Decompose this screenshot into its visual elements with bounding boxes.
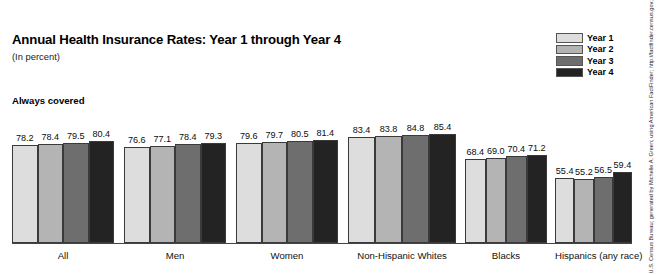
title-block: Annual Health Insurance Rates: Year 1 th… xyxy=(12,32,532,62)
category-label: Non-Hispanic Whites xyxy=(348,250,456,261)
bar-group: 79.679.780.581.4 xyxy=(236,113,338,243)
bar-value-label: 77.1 xyxy=(153,134,171,144)
bar-rect[interactable] xyxy=(527,155,548,243)
category-label: Hispanics (any race) xyxy=(555,250,632,261)
legend-item-label: Year 2 xyxy=(587,44,614,54)
bar-rect[interactable] xyxy=(236,143,262,243)
bar-group-bars: 79.679.780.581.4 xyxy=(236,113,338,243)
legend-swatch-icon xyxy=(556,56,583,66)
bar[interactable]: 79.5 xyxy=(63,113,89,243)
legend-swatch-icon xyxy=(556,68,583,78)
bar-rect[interactable] xyxy=(12,145,38,243)
bar[interactable]: 80.4 xyxy=(89,113,115,243)
bar[interactable]: 79.6 xyxy=(236,113,262,243)
bar-value-label: 80.4 xyxy=(92,129,110,139)
bar-rect[interactable] xyxy=(402,135,429,243)
bar-value-label: 79.7 xyxy=(265,130,283,140)
bar[interactable]: 55.2 xyxy=(574,113,593,243)
bar-rect[interactable] xyxy=(262,142,288,242)
legend-item-label: Year 3 xyxy=(587,56,614,66)
chart-figure: Annual Health Insurance Rates: Year 1 th… xyxy=(0,0,657,275)
bar-value-label: 68.4 xyxy=(466,147,484,157)
bar[interactable]: 78.2 xyxy=(12,113,38,243)
legend-item-2[interactable]: Year 2 xyxy=(556,44,614,56)
bar-rect[interactable] xyxy=(124,147,150,242)
bar-rect[interactable] xyxy=(175,144,201,242)
bar[interactable]: 76.6 xyxy=(124,113,150,243)
bar-rect[interactable] xyxy=(429,134,456,242)
bar-rect[interactable] xyxy=(613,172,632,242)
bar[interactable]: 55.4 xyxy=(555,113,574,243)
legend-swatch-icon xyxy=(556,45,583,55)
legend-item-1[interactable]: Year 1 xyxy=(556,32,614,44)
bar-group: 55.455.256.559.4 xyxy=(555,113,632,243)
legend-item-4[interactable]: Year 4 xyxy=(556,67,614,79)
bar-value-label: 83.4 xyxy=(353,125,371,135)
bar-rect[interactable] xyxy=(375,136,402,242)
bar[interactable]: 69.0 xyxy=(486,113,507,243)
bar-value-label: 69.0 xyxy=(487,146,505,156)
bar-value-label: 78.4 xyxy=(179,132,197,142)
bar[interactable]: 59.4 xyxy=(613,113,632,243)
category-axis: AllMenWomenNon-Hispanic WhitesBlacksHisp… xyxy=(12,250,632,266)
bar[interactable]: 79.3 xyxy=(201,113,227,243)
bar-value-label: 83.8 xyxy=(380,124,398,134)
bar-rect[interactable] xyxy=(486,158,507,242)
category-label: Blacks xyxy=(465,250,547,261)
bar-rect[interactable] xyxy=(38,144,64,242)
chart-subtitle: (In percent) xyxy=(12,51,532,62)
source-note-text: U.S. Census Bureau; generated by Michell… xyxy=(648,5,654,273)
bar[interactable]: 79.7 xyxy=(262,113,288,243)
bar-value-label: 71.2 xyxy=(528,143,546,153)
bar-value-label: 78.2 xyxy=(16,133,34,143)
bar-group: 68.469.070.471.2 xyxy=(465,113,547,243)
bar[interactable]: 71.2 xyxy=(527,113,548,243)
bar-rect[interactable] xyxy=(63,143,89,243)
bar-rect[interactable] xyxy=(313,140,339,243)
bar[interactable]: 83.4 xyxy=(348,113,375,243)
bar[interactable]: 78.4 xyxy=(38,113,64,243)
bar[interactable]: 80.5 xyxy=(287,113,313,243)
bar-rect[interactable] xyxy=(574,179,593,243)
bar-group-bars: 55.455.256.559.4 xyxy=(555,113,632,243)
bar[interactable]: 56.5 xyxy=(594,113,613,243)
bar[interactable]: 81.4 xyxy=(313,113,339,243)
axis-baseline xyxy=(12,243,632,245)
bar-group-bars: 83.483.884.885.4 xyxy=(348,113,456,243)
legend-item-3[interactable]: Year 3 xyxy=(556,55,614,67)
bar-group: 78.278.479.580.4 xyxy=(12,113,114,243)
bar-value-label: 79.5 xyxy=(67,131,85,141)
bar-value-label: 79.3 xyxy=(204,131,222,141)
bar-value-label: 76.6 xyxy=(128,135,146,145)
bar-value-label: 78.4 xyxy=(41,132,59,142)
bar[interactable]: 77.1 xyxy=(150,113,176,243)
bar[interactable]: 84.8 xyxy=(402,113,429,243)
bar-group: 76.677.178.479.3 xyxy=(124,113,226,243)
bar[interactable]: 68.4 xyxy=(465,113,486,243)
bar[interactable]: 85.4 xyxy=(429,113,456,243)
chart-title: Annual Health Insurance Rates: Year 1 th… xyxy=(12,32,532,47)
bar-group-bars: 78.278.479.580.4 xyxy=(12,113,114,243)
bar-value-label: 70.4 xyxy=(507,144,525,154)
bar-rect[interactable] xyxy=(89,141,115,242)
bar-rect[interactable] xyxy=(506,156,527,242)
bar[interactable]: 70.4 xyxy=(506,113,527,243)
series-header: Always covered xyxy=(12,95,85,106)
bar-rect[interactable] xyxy=(465,159,486,242)
bar-rect[interactable] xyxy=(201,143,227,242)
category-label: Men xyxy=(124,250,226,261)
bar-value-label: 55.4 xyxy=(556,166,574,176)
bar[interactable]: 83.8 xyxy=(375,113,402,243)
bar-rect[interactable] xyxy=(555,178,574,242)
bar[interactable]: 78.4 xyxy=(175,113,201,243)
chart-legend: Year 1Year 2Year 3Year 4 xyxy=(556,32,614,78)
bar-rect[interactable] xyxy=(287,141,313,242)
bar-group-bars: 76.677.178.479.3 xyxy=(124,113,226,243)
category-label: Women xyxy=(236,250,338,261)
bar-rect[interactable] xyxy=(150,146,176,242)
bar-group: 83.483.884.885.4 xyxy=(348,113,456,243)
legend-swatch-icon xyxy=(556,33,583,43)
bar-rect[interactable] xyxy=(594,177,613,243)
bar-rect[interactable] xyxy=(348,137,375,243)
bar-value-label: 84.8 xyxy=(407,123,425,133)
